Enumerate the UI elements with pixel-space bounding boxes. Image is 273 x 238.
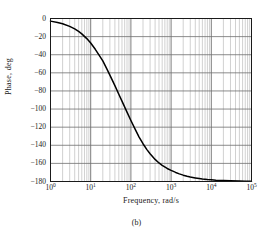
x-tick-exponent: 0 — [53, 182, 56, 188]
x-tick-mantissa: 10 — [86, 183, 94, 192]
x-axis-label: Frequency, rad/s — [50, 196, 252, 205]
x-tick-exponent: 5 — [254, 182, 257, 188]
x-tick-label: 100 — [45, 184, 55, 192]
x-tick-label: 103 — [166, 184, 176, 192]
x-tick-label: 104 — [206, 184, 216, 192]
x-tick-mantissa: 10 — [206, 183, 214, 192]
x-tick-mantissa: 10 — [126, 183, 134, 192]
x-tick-mantissa: 10 — [166, 183, 174, 192]
x-tick-label: 105 — [246, 184, 256, 192]
figure-caption: (b) — [0, 218, 273, 227]
x-tick-exponent: 3 — [173, 182, 176, 188]
x-tick-exponent: 4 — [214, 182, 217, 188]
x-tick-exponent: 2 — [133, 182, 136, 188]
x-tick-exponent: 1 — [93, 182, 96, 188]
x-tick-mantissa: 10 — [246, 183, 254, 192]
bode-phase-figure: 0−20−40−60−80−100−120−140−160−180 Phase,… — [0, 0, 273, 238]
x-tick-label: 101 — [86, 184, 96, 192]
x-tick-label: 102 — [126, 184, 136, 192]
x-tick-mantissa: 10 — [45, 183, 53, 192]
